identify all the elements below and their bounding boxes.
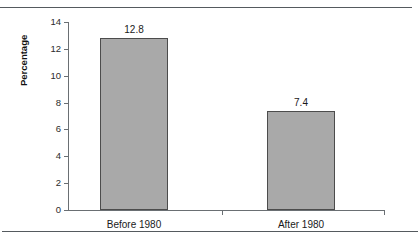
top-divider-rule	[0, 7, 412, 8]
y-tick-label-6: 6	[56, 122, 61, 135]
y-axis-title: Percentage	[17, 72, 31, 86]
y-tick-label-12: 12	[50, 42, 61, 55]
x-tick-end	[384, 210, 385, 215]
chart-figure: Percentage 0 2 4 6 8 10	[0, 0, 420, 239]
bar-value-after-1980: 7.4	[267, 97, 335, 109]
bottom-divider-rule	[2, 231, 418, 232]
plot-area: 0 2 4 6 8 10 12 14	[68, 22, 385, 210]
bar-before-1980[interactable]	[100, 38, 168, 210]
y-tick-label-4: 4	[56, 149, 61, 162]
x-tick-midpoint	[222, 210, 223, 215]
y-tick-label-10: 10	[50, 69, 61, 82]
x-axis-line	[68, 210, 385, 211]
x-category-label-after-1980: After 1980	[257, 218, 345, 231]
y-tick-label-14: 14	[50, 15, 61, 28]
y-tick-label-8: 8	[56, 96, 61, 109]
y-tick-label-0: 0	[56, 203, 61, 216]
y-tick-label-2: 2	[56, 176, 61, 189]
y-axis-line	[68, 22, 69, 210]
bar-value-before-1980: 12.8	[100, 24, 168, 36]
x-category-label-before-1980: Before 1980	[90, 218, 178, 231]
bar-after-1980[interactable]	[267, 111, 335, 210]
